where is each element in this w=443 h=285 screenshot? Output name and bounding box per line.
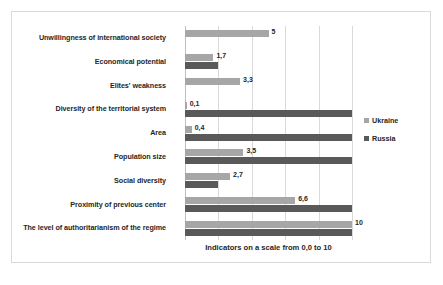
bar-row [185,205,352,212]
bar-row: 3,3 [185,78,352,85]
bar-row: 10 [185,221,352,228]
bar-ukraine[interactable] [185,197,295,204]
bar-row: 6,6 [185,197,352,204]
category-label: The level of authoritarianism of the reg… [12,216,172,240]
bar-value-label: 2,7 [230,171,243,178]
bar-ukraine[interactable] [185,149,243,156]
bar-row: 5 [185,30,352,37]
bar-groups: 51,73,30,10,43,52,76,610 [185,26,352,240]
bar-value-label: 0,4 [192,124,205,131]
bar-row [185,110,352,117]
legend-label: Russia [372,134,396,143]
bar-russia[interactable] [185,181,218,188]
chart-legend: UkraineRussia [364,116,424,152]
bar-ukraine[interactable] [185,126,192,133]
bar-value-label: 6,6 [295,195,308,202]
legend-swatch-icon [364,136,369,141]
bar-value-label: 1,7 [213,52,226,59]
category-label: Proximity of previous center [12,192,172,216]
bar-row [185,86,352,93]
bar-ukraine[interactable] [185,221,352,228]
plot-area: 51,73,30,10,43,52,76,610 [185,26,352,240]
bar-group: 5 [185,26,352,50]
bar-value-label: 3,5 [243,147,256,154]
legend-item-ukraine[interactable]: Ukraine [364,116,424,125]
bar-ukraine[interactable] [185,54,213,61]
x-axis-title: Indicators on a scale from 0,0 to 10 [185,243,352,252]
bar-group: 10 [185,216,352,240]
category-label: Population size [12,145,172,169]
bar-row [185,38,352,45]
bar-row: 0,4 [185,126,352,133]
bar-row [185,229,352,236]
bar-russia[interactable] [185,110,352,117]
bar-row: 2,7 [185,173,352,180]
bar-value-label: 0,1 [187,100,200,107]
bar-group: 3,3 [185,74,352,98]
bar-russia[interactable] [185,157,352,164]
bar-ukraine[interactable] [185,78,240,85]
gridline [352,26,353,240]
bar-group: 3,5 [185,145,352,169]
bar-group: 2,7 [185,169,352,193]
bar-value-label: 5 [269,28,276,35]
bar-group: 1,7 [185,50,352,74]
chart-frame: Unwillingness of international societyEc… [11,11,431,263]
bar-row [185,181,352,188]
category-label: Unwillingness of international society [12,26,172,50]
bar-russia[interactable] [185,229,352,236]
bar-row [185,134,352,141]
bar-row [185,157,352,164]
bar-group: 0,1 [185,97,352,121]
bar-ukraine[interactable] [185,30,269,37]
bar-row: 1,7 [185,54,352,61]
bar-ukraine[interactable] [185,173,230,180]
bar-russia[interactable] [185,62,218,69]
category-label: Diversity of the territorial system [12,97,172,121]
category-axis: Unwillingness of international societyEc… [12,26,172,240]
bar-value-label: 10 [352,219,363,226]
bar-group: 0,4 [185,121,352,145]
category-label: Social diversity [12,169,172,193]
bar-russia[interactable] [185,134,352,141]
bar-group: 6,6 [185,192,352,216]
bar-row [185,62,352,69]
category-label: Area [12,121,172,145]
legend-swatch-icon [364,118,369,123]
category-label: Economical potential [12,50,172,74]
bar-value-label: 3,3 [240,76,253,83]
category-label: Elites' weakness [12,74,172,98]
bar-row: 0,1 [185,102,352,109]
bar-row: 3,5 [185,149,352,156]
legend-label: Ukraine [372,116,398,125]
bar-russia[interactable] [185,205,352,212]
legend-item-russia[interactable]: Russia [364,134,424,143]
